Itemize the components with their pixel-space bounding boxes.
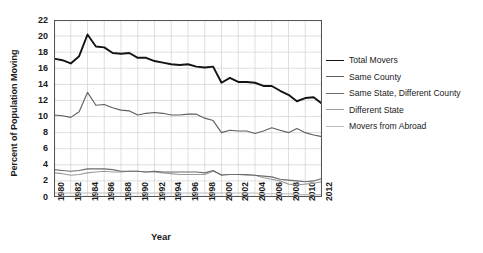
y-tick-4: 4 xyxy=(22,160,48,169)
legend-item-total-movers[interactable]: Total Movers xyxy=(326,52,483,69)
legend-swatch-same-state-different-county xyxy=(326,93,344,94)
legend-swatch-total-movers xyxy=(326,60,344,61)
legend-label-same-state-different-county: Same State, Different County xyxy=(349,88,461,98)
y-tick-12: 12 xyxy=(22,96,48,105)
legend-swatch-same-county xyxy=(326,76,344,77)
y-tick-6: 6 xyxy=(22,144,48,153)
y-tick-22: 22 xyxy=(22,16,48,25)
legend-label-total-movers: Total Movers xyxy=(349,55,398,65)
plot-area xyxy=(54,20,322,197)
y-tick-14: 14 xyxy=(22,80,48,89)
y-tick-0: 0 xyxy=(22,193,48,202)
legend-label-movers-from-abroad: Movers from Abroad xyxy=(349,121,426,131)
y-tick-16: 16 xyxy=(22,64,48,73)
y-tick-2: 2 xyxy=(22,176,48,185)
legend-item-different-state[interactable]: Different State xyxy=(326,102,483,119)
y-tick-18: 18 xyxy=(22,48,48,57)
legend-label-same-county: Same County xyxy=(349,72,401,82)
x-axis-title: Year xyxy=(0,231,322,242)
legend-swatch-different-state xyxy=(326,109,344,110)
legend-item-movers-from-abroad[interactable]: Movers from Abroad xyxy=(326,118,483,135)
legend-swatch-movers-from-abroad xyxy=(326,126,344,127)
y-tick-10: 10 xyxy=(22,112,48,121)
legend-item-same-county[interactable]: Same County xyxy=(326,69,483,86)
y-tick-8: 8 xyxy=(22,128,48,137)
chart-legend: Total MoversSame CountySame State, Diffe… xyxy=(326,52,483,135)
legend-item-same-state-different-county[interactable]: Same State, Different County xyxy=(326,85,483,102)
y-tick-20: 20 xyxy=(22,32,48,41)
chart-figure: Percent of Population Moving 22201816141… xyxy=(0,0,483,253)
legend-label-different-state: Different State xyxy=(349,105,404,115)
y-axis-title: Percent of Population Moving xyxy=(6,33,20,193)
